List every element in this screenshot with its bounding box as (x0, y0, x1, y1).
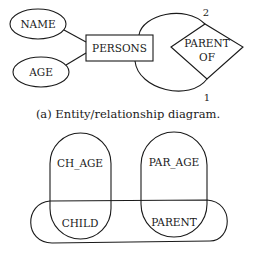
cardinality-bottom: 1 (204, 92, 210, 103)
hyperedge-child-parent-horizontal (31, 200, 228, 243)
edge-name-persons (64, 30, 86, 42)
caption: (a) Entity/relationship diagram. (36, 107, 220, 121)
entity-persons-label: PERSONS (92, 42, 147, 54)
node-par-age: PAR_AGE (149, 156, 199, 169)
cardinality-top: 2 (203, 7, 209, 18)
attribute-age-label: AGE (28, 66, 53, 78)
node-ch-age: CH_AGE (57, 157, 103, 170)
relationship-arc-bottom (135, 61, 207, 91)
relationship-label-line2: OF (199, 51, 215, 63)
node-parent: PARENT (151, 216, 196, 228)
node-child: CHILD (62, 217, 99, 229)
figure: NAME AGE PERSONS PARENT OF 2 1 (a) Entit… (0, 0, 256, 254)
relationship-arc-top (139, 13, 205, 35)
er-diagram: NAME AGE PERSONS PARENT OF 2 1 (a) Entit… (10, 7, 243, 121)
edge-age-persons (66, 53, 86, 65)
hypergraph-diagram: CH_AGE PAR_AGE CHILD PARENT (31, 132, 228, 243)
relationship-label-line1: PARENT (184, 37, 229, 49)
attribute-name-label: NAME (20, 18, 55, 30)
